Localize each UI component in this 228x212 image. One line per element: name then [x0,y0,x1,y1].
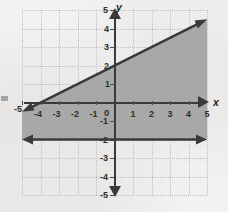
line-y-equals-half-x-plus-2 [22,19,207,112]
x-tick-label: 5 [205,110,210,119]
line-y-equals-negative-2 [22,135,207,145]
x-axis-label: x [213,96,219,108]
coordinate-plane: -5 -4 -3 -2 -1 0 1 2 3 4 5 5 4 3 2 1 -1 … [0,0,228,212]
x-tick-label: 1 [131,110,136,119]
y-tick-label: 3 [104,43,109,52]
x-tick-label: -1 [90,110,98,119]
y-tick-label: 1 [105,80,110,89]
x-tick-label: -4 [34,110,42,119]
x-tick-label: 4 [186,110,191,119]
y-tick-label: -2 [100,136,108,145]
y-tick-label: 5 [103,6,108,15]
x-tick-label: -2 [71,110,79,119]
y-tick-label: -3 [100,154,108,163]
x-tick-label: 2 [149,110,154,119]
x-tick-label: -5 [14,105,22,114]
scan-artifact [1,96,8,101]
y-tick-label: 4 [104,25,109,34]
boundary-lines [0,0,228,212]
x-tick-label: -3 [53,110,61,119]
y-tick-label: -1 [100,117,108,126]
x-tick-label: 3 [168,110,173,119]
y-tick-label: 2 [104,62,109,71]
y-axis-label: y [116,1,122,13]
y-tick-label: -4 [100,173,108,182]
y-tick-label: -5 [100,191,108,200]
